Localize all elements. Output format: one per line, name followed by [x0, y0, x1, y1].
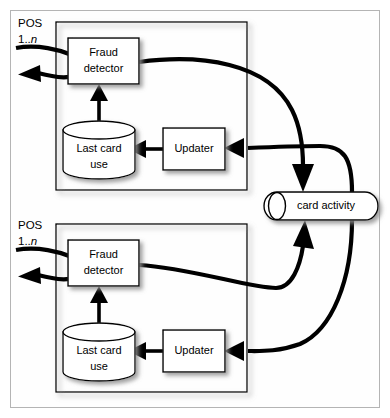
last-card-use-bottom-label-line2: use [90, 360, 108, 372]
diagram-svg: POS 1..n Fraud [0, 0, 390, 418]
pos-bottom-label-prefix: 1.. [18, 235, 31, 247]
node-updater-top[interactable]: Updater [163, 128, 225, 170]
fraud-detector-top-label-line1: Fraud [89, 46, 118, 58]
last-card-use-top-cylinder-top [63, 121, 135, 139]
pos-top-label-prefix: 1.. [18, 33, 31, 45]
node-fraud-detector-bottom[interactable]: Fraud detector [68, 240, 139, 286]
last-card-use-top-label-line1: Last card [76, 142, 121, 154]
last-card-use-bottom-cylinder-top [63, 323, 135, 341]
card-activity-queue-cap [269, 193, 286, 220]
pos-top-label-line1: POS [18, 17, 43, 29]
fraud-detector-bottom-label-line1: Fraud [89, 248, 118, 260]
node-updater-bottom[interactable]: Updater [163, 330, 225, 372]
pos-bottom-label-n: n [31, 235, 37, 247]
diagram-canvas: POS 1..n Fraud [0, 0, 390, 418]
pos-bottom-label-line2: 1..n [18, 235, 37, 247]
updater-top-label: Updater [174, 142, 213, 154]
node-fraud-detector-top[interactable]: Fraud detector [68, 38, 139, 84]
pos-top-label-n: n [31, 33, 37, 45]
last-card-use-top-label-line2: use [90, 158, 108, 170]
pos-top-label-line2: 1..n [18, 33, 37, 45]
node-card-activity[interactable]: card activity [264, 192, 378, 220]
card-activity-label: card activity [297, 199, 356, 211]
fraud-detector-top-label-line2: detector [84, 62, 124, 74]
last-card-use-bottom-label-line1: Last card [76, 344, 121, 356]
pos-bottom-label-line1: POS [18, 219, 43, 231]
updater-bottom-label: Updater [174, 344, 213, 356]
fraud-detector-bottom-label-line2: detector [84, 264, 124, 276]
